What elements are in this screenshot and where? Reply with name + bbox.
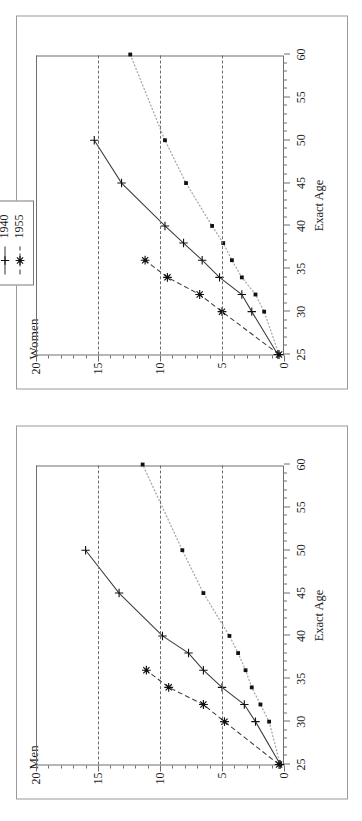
legend-key-1955 xyxy=(14,245,26,275)
gridline-y-15 xyxy=(98,465,99,764)
x-tick-43 xyxy=(284,199,287,200)
x-tick-34 xyxy=(284,276,287,277)
x-tick-25 xyxy=(284,763,290,764)
y-tick-label-0: 0 xyxy=(277,362,292,382)
x-tick-51 xyxy=(284,130,287,131)
data-point-marker-square xyxy=(250,685,254,689)
x-tick-label-25: 25 xyxy=(294,348,309,360)
x-tick-27 xyxy=(284,746,287,747)
data-point-marker-square xyxy=(254,292,258,296)
x-tick-29 xyxy=(284,729,287,730)
data-point-marker-square xyxy=(267,719,271,723)
x-tick-56 xyxy=(284,497,287,498)
y-tick-18 xyxy=(61,355,62,358)
data-point-marker-plus xyxy=(81,546,89,554)
y-tick-label-5: 5 xyxy=(215,772,230,792)
y-tick-5 xyxy=(222,355,223,361)
y-tick-18 xyxy=(61,765,62,768)
y-tick-17 xyxy=(73,355,74,358)
x-tick-38 xyxy=(284,652,287,653)
y-tick-12 xyxy=(135,355,136,358)
y-tick-6 xyxy=(210,765,211,768)
y-tick-19 xyxy=(48,355,49,358)
y-tick-8 xyxy=(185,765,186,768)
x-tick-53 xyxy=(284,113,287,114)
figure-stage: Men 253035404550556005101520 Exact Age W… xyxy=(0,0,362,821)
y-tick-label-10: 10 xyxy=(153,362,168,382)
x-tick-29 xyxy=(284,319,287,320)
y-tick-12 xyxy=(135,765,136,768)
x-tick-60 xyxy=(284,53,290,54)
x-tick-35 xyxy=(284,677,290,678)
y-tick-13 xyxy=(123,765,124,768)
gridline-y-10 xyxy=(160,55,161,354)
x-tick-58 xyxy=(284,480,287,481)
y-tick-17 xyxy=(73,765,74,768)
x-tick-label-40: 40 xyxy=(294,629,309,641)
y-tick-14 xyxy=(110,765,111,768)
y-tick-6 xyxy=(210,355,211,358)
y-tick-2 xyxy=(259,765,260,768)
x-tick-36 xyxy=(284,259,287,260)
x-tick-57 xyxy=(284,79,287,80)
x-tick-42 xyxy=(284,207,287,208)
y-tick-0 xyxy=(284,765,285,771)
data-point-marker-square xyxy=(262,309,266,313)
gridline-y-15 xyxy=(98,55,99,354)
data-point-marker-square xyxy=(259,702,263,706)
x-tick-39 xyxy=(284,643,287,644)
x-tick-31 xyxy=(284,712,287,713)
x-tick-54 xyxy=(284,514,287,515)
data-point-marker-square xyxy=(163,138,167,142)
x-tick-label-50: 50 xyxy=(294,134,309,146)
x-axis-title-men: Exact Age xyxy=(312,589,327,641)
data-point-marker-square xyxy=(236,651,240,655)
x-tick-33 xyxy=(284,284,287,285)
series-line-1925 xyxy=(143,464,281,764)
x-tick-55 xyxy=(284,506,290,507)
y-tick-1 xyxy=(272,765,273,768)
x-tick-label-25: 25 xyxy=(294,758,309,770)
series-line-1940 xyxy=(86,550,281,764)
legend-label-1940: 1940 xyxy=(0,214,12,238)
x-tick-label-60: 60 xyxy=(294,458,309,470)
legend-key-1940 xyxy=(0,245,11,275)
x-tick-label-55: 55 xyxy=(294,501,309,513)
x-tick-label-55: 55 xyxy=(294,91,309,103)
legend-item-1940: 1940 xyxy=(0,210,12,275)
x-tick-label-45: 45 xyxy=(294,587,309,599)
y-tick-label-20: 20 xyxy=(29,772,44,792)
data-point-marker-plus xyxy=(0,256,8,264)
data-point-marker-square xyxy=(180,548,184,552)
series-line-1955 xyxy=(145,260,279,354)
y-tick-15 xyxy=(98,765,99,771)
y-tick-16 xyxy=(86,765,87,768)
data-point-marker-square xyxy=(230,258,234,262)
x-tick-26 xyxy=(284,754,287,755)
y-tick-label-0: 0 xyxy=(277,772,292,792)
x-tick-44 xyxy=(284,600,287,601)
y-tick-19 xyxy=(48,765,49,768)
x-tick-50 xyxy=(284,549,290,550)
x-tick-53 xyxy=(284,523,287,524)
y-tick-15 xyxy=(98,355,99,361)
x-tick-47 xyxy=(284,574,287,575)
x-tick-42 xyxy=(284,617,287,618)
legend: Year of Birth 192519401955 xyxy=(0,200,34,285)
data-point-marker-plus xyxy=(238,290,246,298)
x-tick-40 xyxy=(284,634,290,635)
x-tick-48 xyxy=(284,156,287,157)
gridline-y-5 xyxy=(222,55,223,354)
y-tick-label-15: 15 xyxy=(91,362,106,382)
x-tick-59 xyxy=(284,62,287,63)
x-tick-46 xyxy=(284,583,287,584)
x-tick-30 xyxy=(284,310,290,311)
x-tick-56 xyxy=(284,87,287,88)
x-tick-26 xyxy=(284,344,287,345)
y-tick-10 xyxy=(160,355,161,361)
x-tick-38 xyxy=(284,242,287,243)
data-point-marker-plus xyxy=(248,307,256,315)
y-tick-label-5: 5 xyxy=(215,362,230,382)
x-tick-58 xyxy=(284,70,287,71)
y-tick-7 xyxy=(197,355,198,358)
